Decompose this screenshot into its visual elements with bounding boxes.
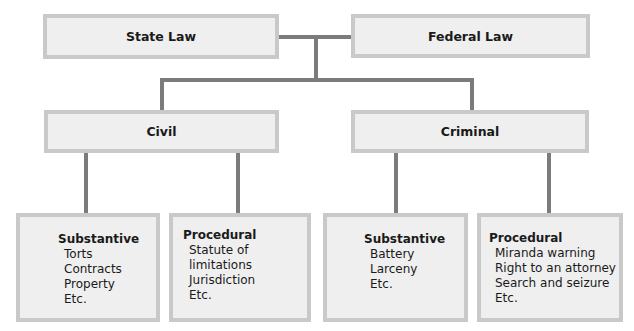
leaf-item: Property (58, 277, 139, 292)
civil-box: Civil (44, 110, 279, 153)
leaf-item: Miranda warning (489, 246, 616, 261)
state-law-box: State Law (43, 14, 279, 59)
connector-to-criminal (470, 78, 474, 110)
leaf-item: Statute of limitations (183, 243, 307, 273)
leaf-item: Etc. (58, 292, 139, 307)
leaf-item: Right to an attorney (489, 261, 616, 276)
criminal-procedural-box: Procedural Miranda warning Right to an a… (477, 213, 623, 322)
civil-label: Civil (146, 124, 176, 139)
leaf-item: Contracts (58, 262, 139, 277)
connector-civil-substantive (84, 153, 88, 213)
federal-law-label: Federal Law (428, 29, 513, 44)
leaf-item: Search and seizure (489, 276, 616, 291)
leaf-item: Torts (58, 247, 139, 262)
criminal-box: Criminal (351, 110, 589, 153)
connector-civil-procedural (236, 153, 240, 213)
leaf-heading: Substantive (364, 232, 445, 247)
connector-branch (160, 78, 474, 82)
leaf-item: Battery (364, 247, 445, 262)
criminal-substantive-box: Substantive Battery Larceny Etc. (323, 213, 468, 322)
connector-criminal-procedural (547, 153, 551, 213)
leaf-heading: Procedural (489, 231, 616, 246)
leaf-item: Etc. (364, 277, 445, 292)
leaf-heading: Substantive (58, 232, 139, 247)
criminal-label: Criminal (441, 124, 500, 139)
connector-to-civil (160, 78, 164, 110)
state-law-label: State Law (126, 29, 196, 44)
connector-criminal-substantive (394, 153, 398, 213)
civil-procedural-box: Procedural Statute of limitations Jurisd… (169, 213, 311, 322)
leaf-heading: Procedural (183, 228, 307, 243)
leaf-item: Etc. (489, 291, 616, 306)
leaf-item: Jurisdiction (183, 273, 307, 288)
connector-trunk (314, 35, 318, 82)
federal-law-box: Federal Law (351, 14, 590, 58)
leaf-item: Etc. (183, 288, 307, 303)
civil-substantive-box: Substantive Torts Contracts Property Etc… (16, 213, 160, 322)
leaf-item: Larceny (364, 262, 445, 277)
